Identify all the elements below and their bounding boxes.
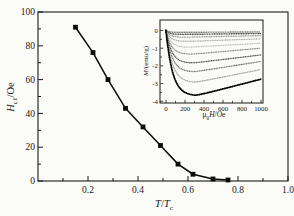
data-point-square xyxy=(211,177,216,182)
tick-label: -4 xyxy=(152,98,158,105)
main-y-sub: c1 xyxy=(11,97,19,104)
main-x-sub: c xyxy=(170,204,173,212)
inset-y-unit: /(emu/g) xyxy=(142,46,150,70)
main-y-unit: /Oe xyxy=(5,82,16,97)
data-point-square xyxy=(141,125,146,130)
tick-label: 0.8 xyxy=(232,185,244,195)
tick-label: 40 xyxy=(26,109,36,119)
data-point-square xyxy=(123,106,128,111)
tick-label: 800 xyxy=(237,105,248,112)
tick-label: 100 xyxy=(21,7,36,17)
tick-label: 1000 xyxy=(254,105,268,112)
data-point-square xyxy=(73,25,78,30)
tick-label: -1 xyxy=(152,45,158,52)
figure: 0.20.40.60.81.00204060801000200400600800… xyxy=(0,0,294,216)
data-point-square xyxy=(226,178,231,183)
data-point-square xyxy=(176,162,181,167)
tick-label: -3 xyxy=(152,80,158,87)
chart-canvas: 0.20.40.60.81.00204060801000200400600800… xyxy=(0,0,294,216)
tick-label: 0.6 xyxy=(182,185,194,195)
data-point-square xyxy=(191,172,196,177)
data-point-square xyxy=(91,50,96,55)
tick-label: 80 xyxy=(26,41,36,51)
main-x-axis-title: T/Tc xyxy=(155,199,173,210)
tick-label: 0 xyxy=(30,176,35,186)
data-point-square xyxy=(106,77,111,82)
main-y-axis-title: Hc1/Oe xyxy=(6,82,17,112)
tick-label: 1.0 xyxy=(282,185,294,195)
inset-y-axis-title: M/(emu/g) xyxy=(143,46,150,76)
data-point-square xyxy=(158,143,163,148)
tick-label: 20 xyxy=(26,142,36,152)
inset-y-var: M xyxy=(142,70,150,76)
tick-label: 0.4 xyxy=(132,185,144,195)
tick-label: 60 xyxy=(26,75,36,85)
inset-x-axis-title: μ0H/Oe xyxy=(203,111,226,119)
tick-label: 0 xyxy=(155,27,159,34)
main-y-var: H xyxy=(5,104,16,112)
tick-label: -2 xyxy=(152,62,158,69)
tick-label: 200 xyxy=(180,105,191,112)
tick-label: 0.2 xyxy=(82,185,94,195)
tick-label: 0 xyxy=(164,105,168,112)
inset-x-unit: /Oe xyxy=(215,110,226,119)
